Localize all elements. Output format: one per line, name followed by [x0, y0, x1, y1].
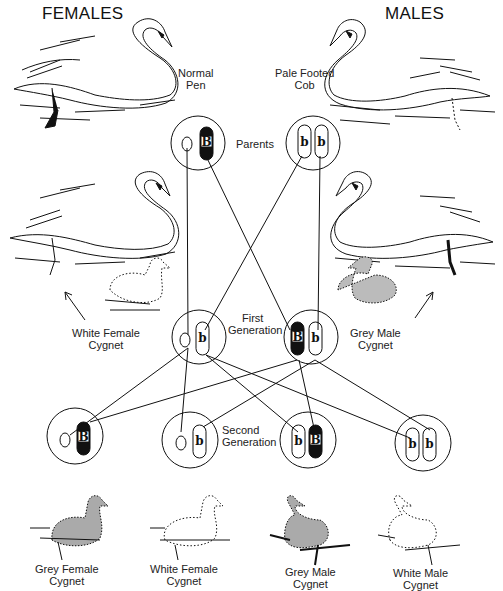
mother-swan-with-white-cygnet-illustration — [10, 172, 179, 320]
white-female-cygnet-illustration — [150, 496, 230, 560]
gene-label: b — [408, 437, 416, 451]
grey-female-cygnet-caption: Grey Female Cygnet — [35, 563, 99, 587]
pale-footed-cob-label: Pale Footed Cob — [275, 67, 334, 91]
gene-label: B — [310, 433, 320, 447]
gene-label: b — [425, 437, 433, 451]
first-generation-label: First Generation — [228, 312, 282, 336]
gene-label: b — [294, 434, 302, 448]
gene-label: b — [198, 331, 206, 345]
parents-label: Parents — [236, 138, 274, 150]
gene-label: B — [292, 330, 302, 344]
grey-male-cygnet-label: Grey Male Cygnet — [350, 327, 401, 351]
white-female-cygnet-caption: White Female Cygnet — [150, 563, 218, 587]
gene-label: b — [300, 135, 308, 149]
white-male-cygnet-illustration — [378, 496, 460, 565]
gene-label: B — [201, 135, 211, 149]
grey-male-cygnet-illustration — [270, 496, 350, 565]
gene-label: b — [311, 331, 319, 345]
white-male-cygnet-caption: White Male Cygnet — [393, 567, 448, 591]
normal-pen-swan-illustration — [14, 19, 178, 128]
white-female-cygnet-label: White Female Cygnet — [72, 327, 140, 351]
father-swan-with-grey-cygnet-illustration — [331, 172, 495, 318]
gene-label: b — [195, 434, 203, 448]
inheritance-diagram: B b b b B b B b b B b b — [0, 0, 503, 591]
gene-label: B — [78, 430, 88, 444]
grey-male-cygnet-caption: Grey Male Cygnet — [285, 566, 336, 590]
grey-female-cygnet-illustration — [30, 496, 108, 560]
pale-footed-cob-swan-illustration — [325, 20, 495, 130]
second-generation-label: Second Generation — [222, 424, 276, 448]
gene-label: b — [317, 135, 325, 149]
normal-pen-label: Normal Pen — [178, 67, 213, 91]
